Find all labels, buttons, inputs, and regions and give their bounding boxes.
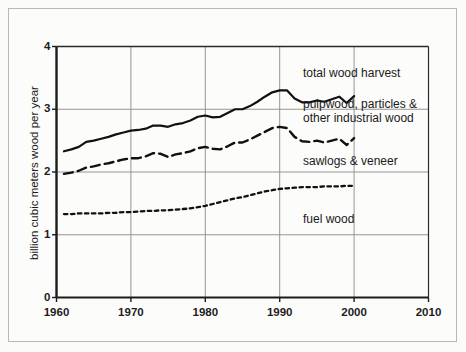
series-line-3 xyxy=(64,186,354,214)
series-annotation: sawlogs & veneer xyxy=(303,154,398,168)
y-tick-label: 2 xyxy=(39,165,51,177)
y-tick-label: 3 xyxy=(39,102,51,114)
x-tick-label: 2010 xyxy=(412,306,446,318)
axis-ticks xyxy=(52,47,429,303)
x-tick-label: 1990 xyxy=(263,306,297,318)
x-tick-label: 1970 xyxy=(114,306,148,318)
x-tick-label: 1980 xyxy=(188,306,222,318)
x-tick-label: 2000 xyxy=(337,306,371,318)
y-axis-title: billion cubic meters wood per year xyxy=(28,86,40,260)
series-annotation: fuel wood xyxy=(303,212,354,226)
gridlines xyxy=(57,47,429,298)
x-tick-label: 1960 xyxy=(40,306,74,318)
y-tick-label: 1 xyxy=(39,228,51,240)
chart-figure: 01234196019701980199020002010 total wood… xyxy=(0,0,466,352)
series-annotation: total wood harvest xyxy=(303,66,400,80)
y-tick-label: 4 xyxy=(39,40,51,52)
y-tick-label: 0 xyxy=(39,291,51,303)
series-annotation: pulpwood, particles & xyxy=(303,97,417,111)
plot-canvas xyxy=(0,0,466,352)
series-annotation: other industrial wood xyxy=(303,111,414,125)
